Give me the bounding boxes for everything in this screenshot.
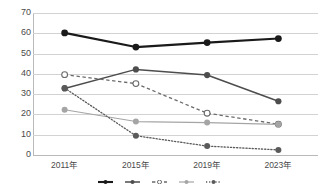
data-point (275, 121, 281, 127)
series-line (65, 69, 279, 101)
data-point (62, 107, 68, 113)
legend-item-4[interactable] (179, 177, 197, 181)
data-point (62, 85, 68, 91)
data-point (275, 98, 281, 104)
series-1 (61, 29, 282, 50)
legend-item-2[interactable] (125, 177, 143, 181)
series-line (65, 33, 279, 47)
data-point (204, 120, 210, 126)
data-point (133, 133, 139, 139)
legend-swatch (125, 177, 140, 181)
data-point (132, 44, 139, 51)
data-point (61, 29, 68, 36)
data-point (275, 35, 282, 42)
data-point (133, 66, 139, 72)
legend-swatch (206, 177, 221, 181)
data-point (204, 39, 211, 46)
data-point (275, 147, 281, 153)
series-layer (0, 0, 322, 186)
chart-legend (0, 177, 322, 186)
legend-item-5[interactable] (206, 177, 224, 181)
legend-item-1[interactable] (98, 177, 116, 181)
data-point (204, 110, 210, 116)
legend-swatch (179, 177, 194, 181)
series-line (65, 110, 279, 125)
line-chart: 706050403020100 2011年2015年2019年2023年 (0, 0, 322, 186)
data-point (133, 81, 139, 87)
series-5 (62, 85, 282, 153)
data-point (204, 72, 210, 78)
legend-swatch (152, 177, 167, 181)
data-point (62, 72, 68, 78)
series-line (65, 75, 279, 125)
data-point (204, 143, 210, 149)
data-point (133, 119, 139, 125)
series-4 (62, 107, 282, 128)
legend-item-3[interactable] (152, 177, 170, 181)
legend-swatch (98, 177, 113, 181)
